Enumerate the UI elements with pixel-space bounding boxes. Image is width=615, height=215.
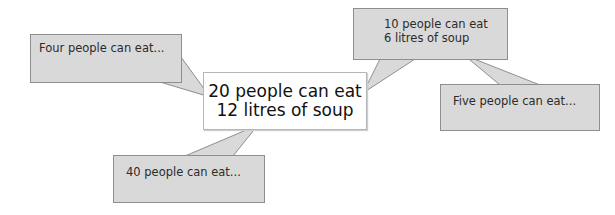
central-statement-box: 20 people can eat 12 litres of soup [203,72,367,130]
center-text-line-2: 12 litres of soup [204,101,366,120]
speech-bubble-four-people: Four people can eat... [30,34,182,83]
bubble-text: Four people can eat... [39,41,173,55]
bubble-text: Five people can eat... [453,94,591,108]
center-text-line-1: 20 people can eat [204,82,366,101]
bubble-text-line-1: 10 people can eat [384,17,499,31]
speech-bubble-ten-people: 10 people can eat 6 litres of soup [353,8,508,60]
speech-bubble-forty-people: 40 people can eat... [113,155,265,203]
bubble-text: 40 people can eat... [126,165,256,179]
tail-ten-bubble [363,59,415,93]
bubble-text-line-2: 6 litres of soup [384,31,499,45]
speech-bubble-five-people: Five people can eat... [440,84,600,131]
